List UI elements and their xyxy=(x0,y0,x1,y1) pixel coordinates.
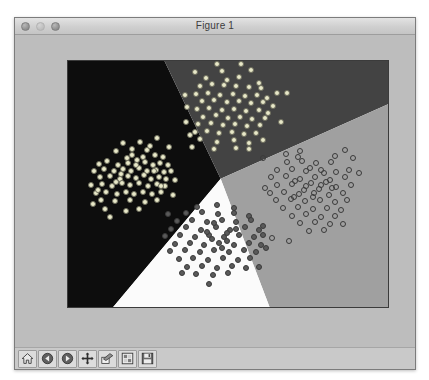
data-point xyxy=(154,135,160,141)
data-point xyxy=(268,174,274,180)
data-point xyxy=(237,114,243,120)
data-point xyxy=(307,165,313,171)
data-point xyxy=(166,144,172,150)
data-point xyxy=(214,265,220,271)
data-point xyxy=(98,197,104,203)
data-point xyxy=(214,202,220,208)
home-icon xyxy=(21,352,34,365)
data-point xyxy=(344,197,350,203)
data-point xyxy=(246,240,252,246)
data-point xyxy=(90,201,96,207)
data-point xyxy=(182,247,188,253)
data-point xyxy=(310,194,316,200)
configure-subplots-button[interactable] xyxy=(118,350,137,368)
data-point xyxy=(140,154,146,160)
data-point xyxy=(260,223,266,229)
data-point xyxy=(142,159,148,165)
x-tick-mark xyxy=(262,307,263,308)
data-point xyxy=(243,265,249,271)
data-point xyxy=(157,160,163,166)
back-arrow-button[interactable] xyxy=(38,350,57,368)
data-point xyxy=(273,197,279,203)
data-point xyxy=(310,206,316,212)
data-point xyxy=(306,228,312,234)
data-point xyxy=(340,190,346,196)
y-tick-mark xyxy=(67,126,68,127)
data-point xyxy=(258,85,264,91)
data-point xyxy=(333,169,339,175)
data-point xyxy=(281,189,287,195)
data-point xyxy=(195,121,201,127)
data-point xyxy=(284,90,290,96)
data-point xyxy=(182,92,188,98)
forward-arrow-icon xyxy=(61,352,74,365)
data-point xyxy=(123,189,129,195)
data-point xyxy=(204,229,210,235)
data-point xyxy=(102,206,108,212)
data-point xyxy=(208,120,214,126)
data-point xyxy=(112,198,118,204)
data-point xyxy=(133,162,139,168)
data-point xyxy=(246,146,252,152)
data-point xyxy=(107,173,113,179)
data-point xyxy=(283,151,289,157)
data-point xyxy=(346,167,352,173)
y-tick-mark xyxy=(67,105,68,106)
data-point xyxy=(152,152,158,158)
x-tick-mark xyxy=(213,307,214,308)
data-point xyxy=(260,137,266,143)
data-point xyxy=(211,146,217,152)
home-button[interactable] xyxy=(18,350,37,368)
window-titlebar[interactable]: Figure 1 xyxy=(15,18,415,35)
data-point xyxy=(127,197,133,203)
data-point xyxy=(165,211,171,217)
data-point xyxy=(118,171,124,177)
data-point xyxy=(156,174,162,180)
data-point xyxy=(292,178,298,184)
data-point xyxy=(205,90,211,96)
data-point xyxy=(213,112,219,118)
data-point xyxy=(219,68,225,74)
y-tick-mark xyxy=(67,213,68,214)
data-point xyxy=(160,154,166,160)
data-point xyxy=(187,132,193,138)
data-point xyxy=(295,204,301,210)
x-tick-mark xyxy=(139,307,140,308)
data-point xyxy=(260,99,266,105)
zoom-rect-button[interactable] xyxy=(98,350,117,368)
forward-arrow-button[interactable] xyxy=(58,350,77,368)
data-point xyxy=(321,170,327,176)
figure-canvas: −4−3−2−10123456−1012345678910 xyxy=(15,35,415,348)
x-tick-mark xyxy=(90,307,91,308)
data-point xyxy=(283,173,289,179)
data-point xyxy=(280,205,286,211)
data-point xyxy=(248,67,254,73)
data-point xyxy=(231,106,237,112)
data-point xyxy=(236,74,242,80)
y-tick-mark xyxy=(67,192,68,193)
data-point xyxy=(233,226,239,232)
data-point xyxy=(149,191,155,197)
data-point xyxy=(302,198,308,204)
data-point xyxy=(225,115,231,121)
data-point xyxy=(231,137,237,143)
y-tick-mark xyxy=(67,300,68,301)
pan-move-button[interactable] xyxy=(78,350,97,368)
data-point xyxy=(338,207,344,213)
data-point xyxy=(342,174,348,180)
data-point xyxy=(190,255,196,261)
data-point xyxy=(224,230,230,236)
data-point xyxy=(278,119,284,125)
data-point xyxy=(233,219,239,225)
data-point xyxy=(125,160,131,166)
data-point xyxy=(263,245,269,251)
save-disk-button[interactable] xyxy=(138,350,157,368)
data-point xyxy=(229,129,235,135)
data-point xyxy=(248,100,254,106)
data-point xyxy=(225,270,231,276)
data-point xyxy=(209,81,215,87)
data-point xyxy=(197,136,203,142)
data-point xyxy=(308,180,314,186)
data-point xyxy=(243,108,249,114)
data-point xyxy=(154,197,160,203)
